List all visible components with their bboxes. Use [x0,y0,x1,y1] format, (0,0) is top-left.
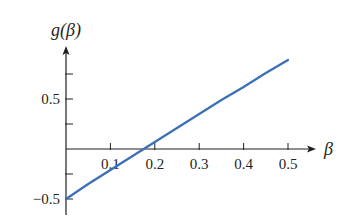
axes [63,46,317,215]
x-tick-label: 0.4 [234,156,253,172]
y-tick-label: 0.5 [41,91,60,107]
y-tick-label: −0.5 [33,191,60,207]
x-tick-label: 0.5 [279,156,298,172]
ticks [65,74,288,199]
data-line [66,60,288,199]
y-axis-label: g(β) [51,20,81,41]
x-tick-label: 0.2 [145,156,164,172]
x-axis-label: β [323,139,333,159]
line-chart: 0.10.20.30.40.5−0.50.5 g(β) β [0,0,347,221]
x-tick-label: 0.3 [190,156,209,172]
series [66,60,288,199]
